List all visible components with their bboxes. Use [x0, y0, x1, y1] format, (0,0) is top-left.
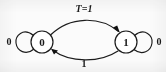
state-0-label: 0: [39, 36, 45, 48]
state-diagram-canvas: 0 1 0 T=1 1 0: [0, 0, 166, 72]
self-loop-left-label: 0: [7, 36, 12, 47]
state-1-label: 1: [123, 36, 129, 48]
upper-arc-label: T=1: [76, 3, 93, 14]
state-diagram-figure: 0 1 0 T=1 1 0: [0, 0, 166, 72]
state-node-1[interactable]: 1: [115, 31, 137, 53]
lower-arc-arrowhead: [51, 49, 58, 55]
transition-state0-to-state1: [51, 20, 121, 35]
self-loop-right-label: 0: [157, 36, 162, 47]
upper-arc-arrowhead: [113, 26, 120, 33]
state-node-0[interactable]: 0: [31, 31, 53, 53]
upper-arc-path: [51, 20, 119, 35]
lower-arc-label: 1: [82, 58, 87, 69]
